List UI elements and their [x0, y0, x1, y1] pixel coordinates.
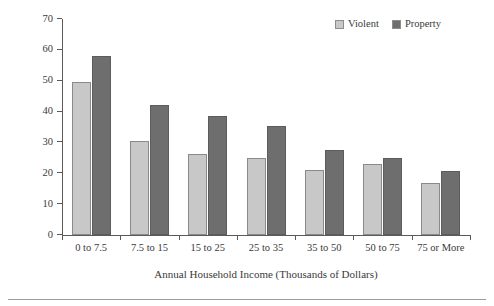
- y-axis-tick: 70: [57, 18, 62, 19]
- bar-property: [150, 105, 169, 235]
- y-axis-tick: 30: [57, 141, 62, 142]
- y-axis-tick-label: 50: [43, 75, 54, 86]
- y-axis-tick-label: 40: [43, 106, 54, 117]
- bar-group: [247, 19, 286, 235]
- bar-violent: [188, 154, 207, 235]
- bar-violent: [421, 183, 440, 235]
- x-axis-category-label: 7.5 to 15: [131, 243, 168, 254]
- y-axis-tick: 50: [57, 80, 62, 81]
- bar-group: [72, 19, 111, 235]
- x-axis-line: [62, 235, 470, 236]
- x-axis-category-label: 35 to 50: [307, 243, 341, 254]
- bar-property: [441, 171, 460, 235]
- y-axis-tick: 60: [57, 49, 62, 50]
- footer-divider: [8, 299, 486, 300]
- y-axis-tick-label: 70: [43, 13, 54, 24]
- x-axis-category-label: 15 to 25: [190, 243, 224, 254]
- x-axis-title: Annual Household Income (Thousands of Do…: [62, 268, 470, 280]
- bar-chart-figure: Violent Property 010203040506070 0 to 7.…: [0, 0, 494, 306]
- x-axis-tick: [237, 235, 238, 240]
- bar-group: [363, 19, 402, 235]
- bar-group: [305, 19, 344, 235]
- x-axis-category-label: 0 to 7.5: [75, 243, 107, 254]
- x-axis-tick: [470, 235, 471, 240]
- bar-group: [188, 19, 227, 235]
- y-axis-tick-label: 0: [48, 229, 53, 240]
- bar-violent: [72, 82, 91, 235]
- y-axis-tick-label: 30: [43, 137, 54, 148]
- x-axis-tick: [120, 235, 121, 240]
- bar-violent: [305, 170, 324, 235]
- x-axis-category-label: 25 to 35: [249, 243, 283, 254]
- y-axis-tick-label: 60: [43, 44, 54, 55]
- y-axis-tick-label: 20: [43, 168, 54, 179]
- bar-group: [130, 19, 169, 235]
- bar-property: [208, 116, 227, 235]
- x-axis-category-label: 75 or More: [417, 243, 464, 254]
- y-axis-tick: 40: [57, 111, 62, 112]
- y-axis-tick: 20: [57, 172, 62, 173]
- x-axis-tick: [62, 235, 63, 240]
- bar-property: [267, 126, 286, 235]
- plot-area: 010203040506070 0 to 7.57.5 to 1515 to 2…: [62, 19, 470, 235]
- x-axis-tick: [295, 235, 296, 240]
- bar-property: [92, 56, 111, 235]
- bar-property: [325, 150, 344, 235]
- x-axis-tick: [412, 235, 413, 240]
- y-axis-tick-label: 10: [43, 198, 54, 209]
- x-axis-category-label: 50 to 75: [365, 243, 399, 254]
- y-axis-tick: 10: [57, 203, 62, 204]
- bar-group: [421, 19, 460, 235]
- x-axis-tick: [179, 235, 180, 240]
- bar-violent: [130, 141, 149, 235]
- x-axis-tick: [353, 235, 354, 240]
- bar-property: [383, 158, 402, 235]
- bar-violent: [247, 158, 266, 235]
- bar-violent: [363, 164, 382, 235]
- y-axis-line: [62, 19, 63, 235]
